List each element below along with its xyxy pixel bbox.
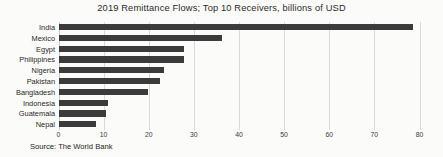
bar-row	[59, 33, 420, 44]
bar-row	[59, 119, 420, 130]
category-label-pakistan: Pakistan	[1, 77, 55, 86]
category-label-nigeria: Nigeria	[1, 66, 55, 75]
x-tick-label: 50	[280, 131, 288, 138]
bar-pakistan	[59, 78, 161, 84]
category-label-egypt: Egypt	[1, 45, 55, 54]
chart-figure: 2019 Remittance Flows; Top 10 Receivers,…	[0, 0, 443, 157]
x-tick-label: 40	[235, 131, 243, 138]
x-tick-label: 10	[100, 131, 108, 138]
bar-row	[59, 44, 420, 55]
category-label-bangladesh: Bangladesh	[1, 88, 55, 97]
bar-row	[59, 108, 420, 119]
category-label-india: India	[1, 23, 55, 32]
plot-area	[59, 22, 420, 130]
category-label-nepal: Nepal	[1, 120, 55, 129]
category-label-guatemala: Guatemala	[1, 109, 55, 118]
bar-guatemala	[59, 110, 106, 116]
bar-row	[59, 76, 420, 87]
x-axis: 01020304050607080	[59, 131, 420, 143]
x-tick-label: 60	[325, 131, 333, 138]
bar-philippines	[59, 56, 184, 62]
category-label-mexico: Mexico	[1, 34, 55, 43]
x-tick-label: 30	[190, 131, 198, 138]
bar-egypt	[59, 46, 184, 52]
source-note: Source: The World Bank	[30, 142, 112, 151]
category-label-indonesia: Indonesia	[1, 99, 55, 108]
bar-nigeria	[59, 67, 164, 73]
bar-row	[59, 87, 420, 98]
x-tick-label: 70	[371, 131, 379, 138]
bar-row	[59, 22, 420, 33]
category-axis: IndiaMexicoEgyptPhilippinesNigeriaPakist…	[0, 22, 55, 130]
chart-title: 2019 Remittance Flows; Top 10 Receivers,…	[0, 3, 443, 13]
x-tick-label: 80	[416, 131, 424, 138]
bar-row	[59, 54, 420, 65]
bar-row	[59, 98, 420, 109]
bar-bangladesh	[59, 89, 149, 95]
x-tick-label: 0	[57, 131, 61, 138]
bar-indonesia	[59, 100, 109, 106]
gridline-80	[420, 22, 421, 130]
category-label-philippines: Philippines	[1, 55, 55, 64]
bar-india	[59, 24, 414, 30]
bar-row	[59, 65, 420, 76]
bar-nepal	[59, 121, 96, 127]
bar-mexico	[59, 35, 223, 41]
x-tick-label: 20	[145, 131, 153, 138]
